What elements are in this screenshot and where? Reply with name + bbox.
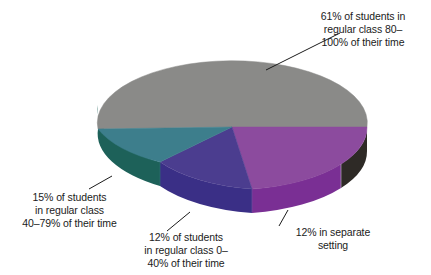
- slice-top-regular-class-80-100: [97, 61, 367, 129]
- slice-label-regular-class-40-79: 15% of students in regular class 40–79% …: [2, 191, 137, 230]
- slice-label-regular-class-0-40: 12% of students in regular class 0– 40% …: [122, 231, 250, 270]
- slice-label-regular-class-80-100: 61% of students in regular class 80– 100…: [300, 10, 426, 49]
- leader-line-separate-setting: [279, 210, 288, 226]
- pie-3d-group: [97, 61, 367, 213]
- leader-line-regular-class-40-79: [89, 176, 112, 189]
- pie-chart-figure: 61% of students in regular class 80– 100…: [0, 0, 431, 275]
- slice-label-separate-setting: 12% in separate setting: [278, 226, 388, 252]
- leader-line-regular-class-0-40: [167, 212, 190, 231]
